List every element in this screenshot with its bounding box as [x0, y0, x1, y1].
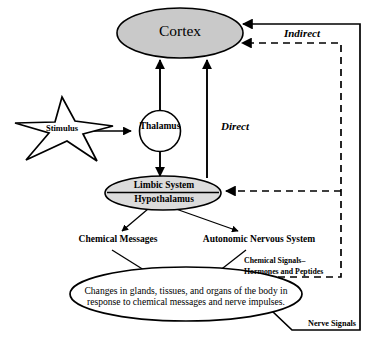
diagram-canvas: Cortex Thalamus Limbic System Hypothalam… — [0, 0, 377, 345]
node-cortex — [117, 8, 243, 58]
node-limbic-hypothalamus — [105, 176, 221, 210]
node-thalamus — [140, 111, 181, 152]
node-stimulus — [15, 97, 113, 161]
edge-hypothalamus-to-autonomic — [176, 209, 238, 231]
node-effect — [70, 267, 302, 321]
edge-effect-to-cortex-indirect — [242, 43, 341, 277]
edge-hypothalamus-to-chemical-messages — [122, 209, 148, 231]
diagram-graphics — [0, 0, 377, 345]
